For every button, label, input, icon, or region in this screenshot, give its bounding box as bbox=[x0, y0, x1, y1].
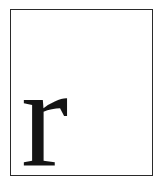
letter-card: r bbox=[10, 9, 153, 176]
letter-glyph: r bbox=[21, 46, 68, 188]
